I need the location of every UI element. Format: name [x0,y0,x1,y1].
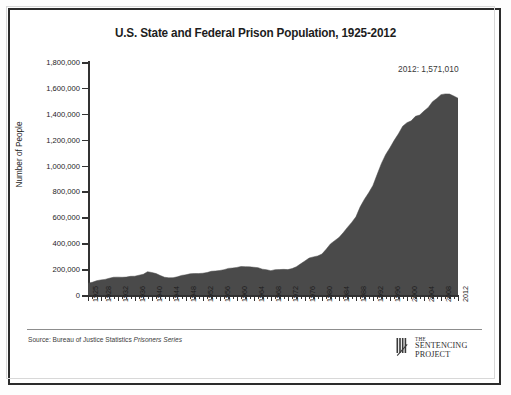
x-axis-tick [228,296,229,299]
x-axis-tick [377,296,378,299]
x-axis-tick [207,296,208,299]
x-axis-tick [360,296,361,299]
x-axis-tick [318,296,319,299]
x-axis-tick [118,296,119,301]
x-axis-tick [271,296,272,301]
y-axis-tick [82,217,89,219]
x-axis-tick-label: 1952 [206,286,215,302]
x-axis-tick [352,296,353,299]
chart-figure: U.S. State and Federal Prison Population… [0,0,511,395]
x-axis-tick [190,296,191,299]
x-axis-tick [165,296,166,299]
x-axis-tick-label: 2012 [461,286,470,302]
x-axis-tick [220,296,221,301]
x-axis-tick [322,296,323,301]
x-axis-tick [177,296,178,299]
x-axis-tick-label: 1980 [325,286,334,302]
x-axis-tick [313,296,314,299]
x-axis-tick [305,296,306,301]
x-axis-tick-label: 2000 [410,286,419,302]
x-axis-tick [339,296,340,301]
y-axis-tick [82,88,89,90]
x-axis-tick [326,296,327,299]
source-prefix: Source: Bureau of Justice Statistics [28,336,134,343]
x-axis-tick-label: 1944 [172,286,181,302]
x-axis-tick-label: 2008 [444,286,453,302]
x-axis-tick [309,296,310,299]
x-axis-tick [343,296,344,299]
x-axis-tick [182,296,183,299]
x-axis-tick [105,296,106,299]
x-axis-tick [398,296,399,299]
x-axis-tick [148,296,149,299]
x-axis-tick-label: 1956 [223,286,232,302]
footer-divider [27,329,482,330]
x-axis-tick [199,296,200,299]
y-axis-tick [82,191,89,193]
x-axis-tick-label: 1925 [91,286,100,302]
x-axis-tick [403,296,404,299]
x-axis-tick [267,296,268,299]
x-axis-tick [241,296,242,299]
x-axis-tick-label: 1984 [342,286,351,302]
x-axis-tick [292,296,293,299]
x-axis-tick [424,296,425,301]
x-axis-tick [275,296,276,299]
data-point-annotation: 2012: 1,571,010 [398,64,459,74]
x-axis-tick-label: 1976 [308,286,317,302]
x-axis-tick [237,296,238,301]
x-axis-tick [258,296,259,299]
x-axis-tick-label: 1940 [155,286,164,302]
x-axis-tick [114,296,115,299]
x-axis-tick [216,296,217,299]
x-axis-tick-label: 1932 [121,286,130,302]
x-axis-tick [394,296,395,299]
x-axis-tick [97,296,98,299]
x-axis-tick [445,296,446,299]
x-axis-tick [390,296,391,301]
x-axis-tick [428,296,429,299]
x-axis-tick [279,296,280,299]
source-note: Source: Bureau of Justice Statistics Pri… [28,336,182,343]
x-axis-tick [211,296,212,299]
x-axis-tick [233,296,234,299]
x-axis-tick [186,296,187,301]
x-axis-tick [254,296,255,301]
x-axis-tick-label: 1996 [393,286,402,302]
x-axis-tick [301,296,302,299]
x-axis-tick [369,296,370,299]
y-axis-tick [82,114,89,116]
x-axis-tick [250,296,251,299]
x-axis-tick [101,296,102,301]
x-axis-tick [126,296,127,299]
x-axis-tick-label: 1968 [274,286,283,302]
x-axis-tick-label: 1928 [104,286,113,302]
prison-bars-icon [396,337,411,357]
x-axis-tick [284,296,285,299]
x-axis-tick [169,296,170,301]
x-axis-tick [356,296,357,301]
x-axis-tick [330,296,331,299]
x-axis-tick [441,296,442,301]
x-axis-tick-label: 1948 [189,286,198,302]
y-axis-tick [82,140,89,142]
x-axis-tick [449,296,450,299]
x-axis-tick [415,296,416,299]
x-axis-tick [131,296,132,299]
logo-wordmark: THE SENTENCING PROJECT [415,337,467,359]
x-axis-tick [139,296,140,299]
x-axis-tick [454,296,455,299]
x-axis-tick [135,296,136,301]
x-axis-tick [411,296,412,299]
x-axis-tick [160,296,161,299]
x-axis-tick [224,296,225,299]
x-axis-tick-label: 1988 [359,286,368,302]
y-axis-tick [82,166,89,168]
x-axis-tick [437,296,438,299]
x-axis-tick [122,296,123,299]
x-axis-tick [288,296,289,301]
x-axis-tick [143,296,144,299]
x-axis-tick [364,296,365,299]
x-axis-tick [92,296,93,299]
source-series-title: Prisoners Series [134,336,182,343]
